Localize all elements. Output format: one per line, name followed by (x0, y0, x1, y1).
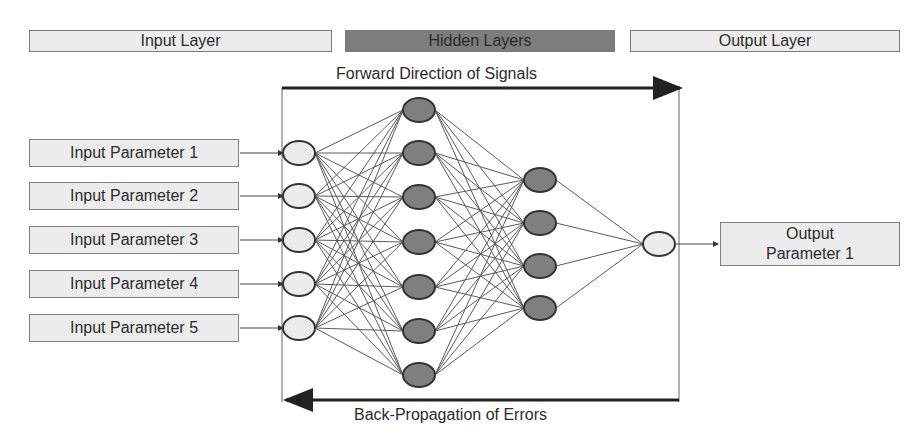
output-label-line1: Output (721, 224, 899, 244)
hidden-2-node-2 (524, 211, 556, 235)
hidden-1-node-6 (403, 319, 435, 343)
input-node-2 (283, 184, 315, 208)
neural-network-diagram (0, 0, 922, 441)
input-parameter-1: Input Parameter 1 (29, 139, 239, 167)
hidden-1-node-4 (403, 230, 435, 254)
hidden-1-node-7 (403, 363, 435, 387)
hidden-1-node-5 (403, 275, 435, 299)
hidden-2-node-4 (524, 296, 556, 320)
connections (315, 110, 643, 375)
input-node-5 (283, 316, 315, 340)
hidden-1-node-1 (403, 98, 435, 122)
nodes (283, 98, 675, 387)
input-node-1 (283, 141, 315, 165)
hidden-1-node-3 (403, 185, 435, 209)
input-parameter-2: Input Parameter 2 (29, 182, 239, 210)
hidden-2-node-3 (524, 254, 556, 278)
input-parameter-3: Input Parameter 3 (29, 226, 239, 254)
hidden-2-node-1 (524, 168, 556, 192)
output-node-1 (643, 232, 675, 256)
hidden-1-node-2 (403, 141, 435, 165)
output-parameter-1: Output Parameter 1 (720, 222, 900, 266)
output-label-line2: Parameter 1 (721, 244, 899, 264)
input-node-3 (283, 228, 315, 252)
input-parameter-4: Input Parameter 4 (29, 270, 239, 298)
input-node-4 (283, 272, 315, 296)
input-parameter-5: Input Parameter 5 (29, 314, 239, 342)
